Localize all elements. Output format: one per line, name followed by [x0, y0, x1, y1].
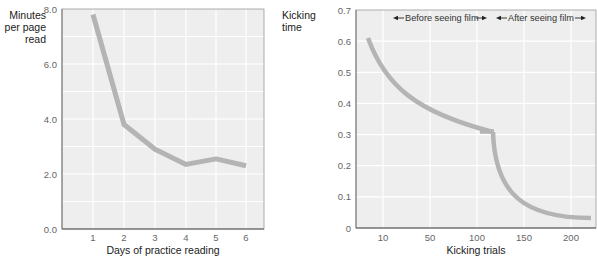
left-x-tick: 3: [152, 232, 157, 243]
left-x-tick: 5: [213, 232, 218, 243]
left-y-tick: 0.0: [44, 224, 57, 235]
annotation-before-film-label: Before seeing film: [405, 13, 479, 23]
left-y-tick: 4.0: [44, 114, 57, 125]
right-y-tick: 0.5: [338, 67, 351, 78]
annotation-after-film-label: After seeing film: [508, 13, 574, 23]
annotation-after-film: After seeing film: [496, 13, 586, 23]
right-y-tick: 0.2: [338, 160, 351, 171]
left-x-tick: 6: [243, 232, 248, 243]
right-x-tick: 150: [516, 232, 532, 243]
charts-canvas: 8.0 6.0 4.0 2.0 0.0 1 2 3 4 5 6: [0, 0, 597, 260]
left-y-tick-labels: 8.0 6.0 4.0 2.0 0.0: [44, 4, 57, 235]
right-plot-area: [356, 10, 596, 228]
right-y-tick: 0.7: [338, 5, 351, 16]
right-x-tick: 50: [425, 232, 436, 243]
left-x-tick-labels: 1 2 3 4 5 6: [90, 232, 248, 243]
right-y-tick: 0.1: [338, 191, 351, 202]
left-x-tick: 4: [183, 232, 188, 243]
right-chart: 0.7 0.6 0.5 0.4 0.3 0.2 0.1 0 10 50 100 …: [338, 5, 596, 243]
right-y-tick: 0.6: [338, 36, 351, 47]
left-chart: 8.0 6.0 4.0 2.0 0.0 1 2 3 4 5 6: [44, 4, 264, 243]
right-y-tick-labels: 0.7 0.6 0.5 0.4 0.3 0.2 0.1 0: [338, 5, 351, 234]
right-y-tick: 0.3: [338, 129, 351, 140]
left-y-tick: 8.0: [44, 4, 57, 15]
right-x-tick: 10: [378, 232, 389, 243]
left-y-tick: 2.0: [44, 169, 57, 180]
right-x-tick: 100: [469, 232, 485, 243]
left-x-tick: 2: [121, 232, 126, 243]
right-x-tick-labels: 10 50 100 150 200: [378, 232, 579, 243]
left-y-tick: 6.0: [44, 59, 57, 70]
right-y-tick: 0.4: [338, 98, 351, 109]
right-x-tick: 200: [563, 232, 579, 243]
left-x-tick: 1: [90, 232, 95, 243]
right-y-tick: 0: [346, 223, 351, 234]
annotation-before-film: Before seeing film: [393, 13, 487, 23]
